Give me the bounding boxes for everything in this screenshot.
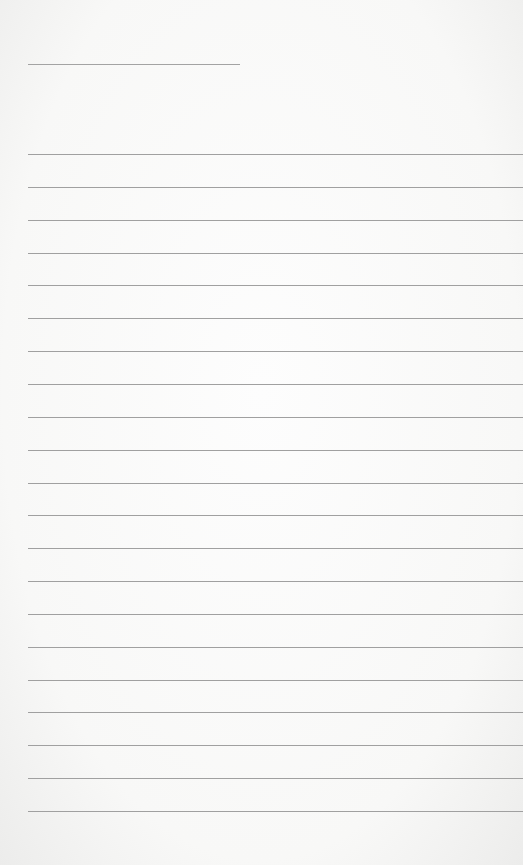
ruled-line (28, 417, 523, 418)
ruled-line (28, 253, 523, 254)
ruled-line (28, 285, 523, 286)
ruled-line (28, 647, 523, 648)
ruled-line (28, 220, 523, 221)
ruled-line (28, 778, 523, 779)
ruled-line (28, 581, 523, 582)
ruled-line (28, 811, 523, 812)
ruled-line (28, 515, 523, 516)
ruled-line (28, 318, 523, 319)
title-line (28, 64, 240, 65)
ruled-line (28, 614, 523, 615)
ruled-line (28, 548, 523, 549)
ruled-line (28, 187, 523, 188)
ruled-line (28, 154, 523, 155)
ruled-line (28, 680, 523, 681)
ruled-line (28, 384, 523, 385)
ruled-line (28, 483, 523, 484)
ruled-line (28, 351, 523, 352)
lined-paper-sheet (0, 0, 523, 865)
ruled-line (28, 745, 523, 746)
ruled-line (28, 450, 523, 451)
ruled-line (28, 712, 523, 713)
